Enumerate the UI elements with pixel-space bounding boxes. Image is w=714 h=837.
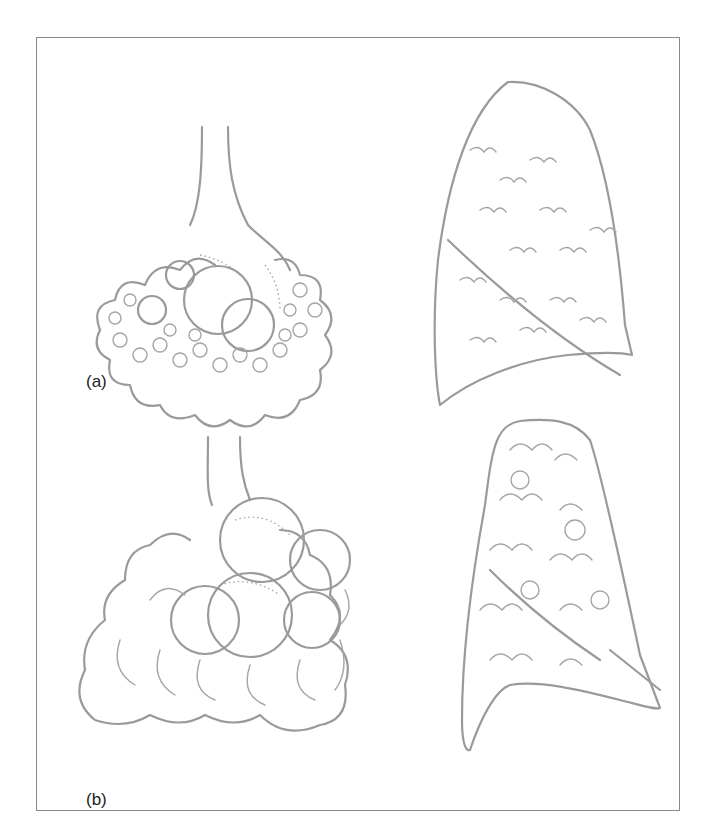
- lung-a-illustration: [435, 82, 632, 405]
- panel-label-a: (a): [86, 372, 107, 392]
- lung-b-illustration: [462, 420, 660, 750]
- acinus-b-illustration: [79, 437, 350, 731]
- acinus-a-illustration: [97, 127, 332, 426]
- illustration-canvas: [0, 0, 714, 837]
- panel-label-b: (b): [86, 790, 107, 810]
